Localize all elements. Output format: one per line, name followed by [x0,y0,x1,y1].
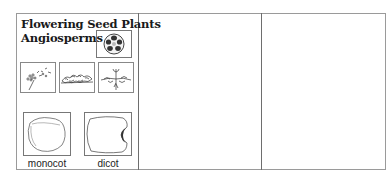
monocot-seed-icon [23,112,71,156]
dicot-seed-icon [84,112,132,156]
blank-column-2 [139,14,260,169]
dicot-label: dicot [84,158,132,169]
monocot-label: monocot [23,158,71,169]
creeping-plant-sketch-icon [98,62,134,93]
angiosperm-card: Flowering Seed Plants Angiosperms [17,14,138,169]
flower-illustration-icon [96,30,132,58]
shrub-sketch-icon [59,62,95,93]
blank-column-3 [262,14,385,169]
dandelion-sketch-icon [20,62,56,93]
